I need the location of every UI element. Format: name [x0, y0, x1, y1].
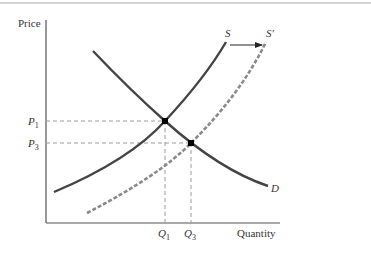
supply-label: S — [225, 27, 231, 39]
demand-label: D — [270, 182, 279, 194]
equilibrium-point-new — [188, 140, 194, 146]
x-axis-label: Quantity — [237, 227, 276, 239]
p1-label: P1 — [27, 115, 39, 130]
supply-shifted-curve — [87, 42, 266, 213]
guide-lines — [46, 121, 191, 223]
q3-label: Q3 — [184, 227, 196, 242]
equilibrium-point-initial — [162, 118, 168, 124]
p3-label: P3 — [27, 137, 39, 152]
supply-curve — [54, 42, 226, 192]
supply-demand-diagram: Price Quantity S S′ D P1 P3 Q1 Q3 — [0, 0, 371, 254]
demand-curve — [93, 51, 268, 186]
q1-label: Q1 — [158, 227, 170, 242]
supply-shifted-label: S′ — [266, 27, 275, 39]
y-axis-label: Price — [18, 17, 41, 29]
